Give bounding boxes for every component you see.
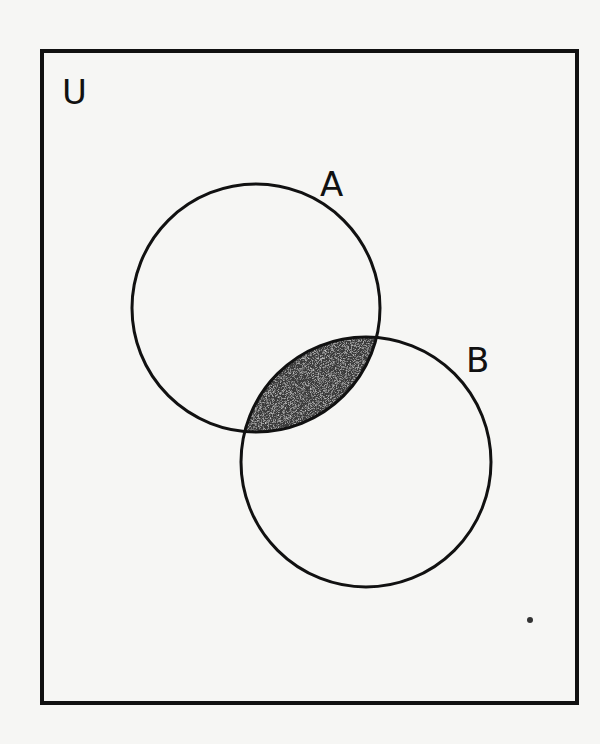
venn-diagram: U A B bbox=[0, 0, 600, 744]
stray-dot bbox=[527, 617, 533, 623]
set-b-label: B bbox=[466, 340, 489, 380]
universe-label: U bbox=[62, 72, 87, 112]
set-a-label: A bbox=[320, 164, 343, 204]
set-a-circle bbox=[132, 184, 380, 432]
set-b-circle bbox=[241, 337, 491, 587]
